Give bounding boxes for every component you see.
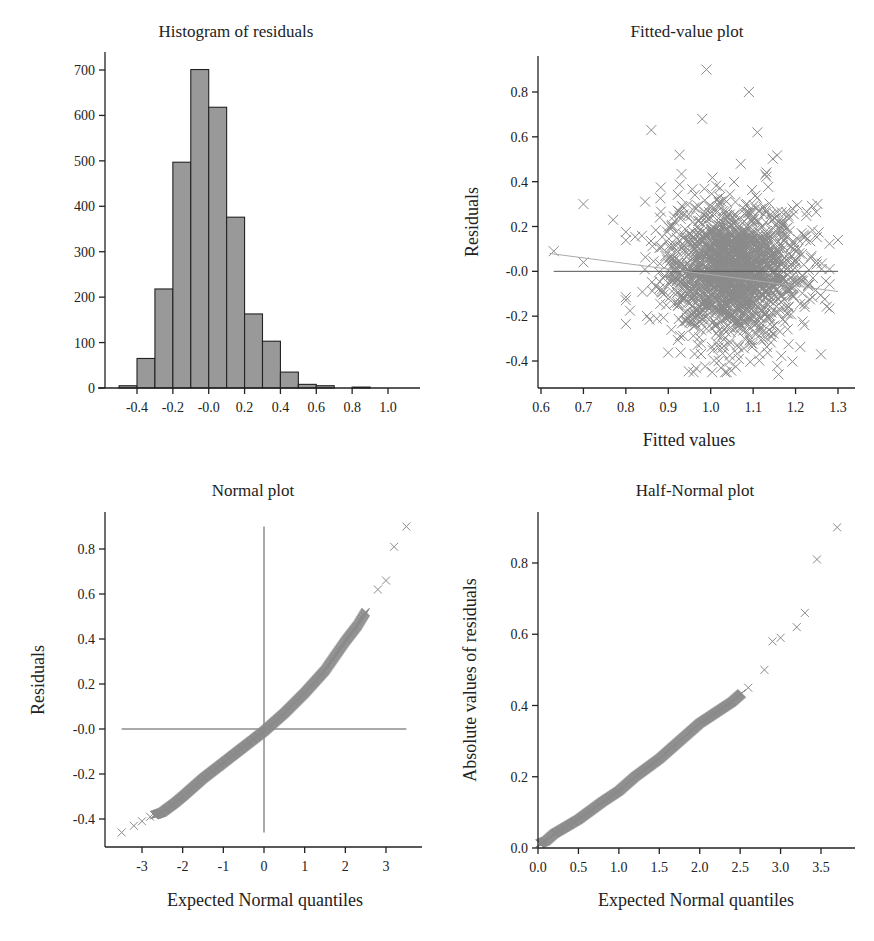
histogram-title: Histogram of residuals — [159, 22, 314, 41]
y-tick-label: 0.4 — [78, 632, 96, 647]
normal-scatter-points — [118, 523, 411, 837]
x-tick-label: 0.0 — [529, 860, 547, 875]
x-tick-label: 1.5 — [651, 860, 669, 875]
y-tick-label: -0.4 — [506, 354, 528, 369]
y-tick-label: 100 — [74, 336, 95, 351]
x-tick-label: -2 — [177, 859, 189, 874]
normal-plot-panel: Normal plot -0.4-0.2-0.00.20.40.60.8-3-2… — [28, 481, 422, 910]
y-tick-label: 0.6 — [511, 130, 529, 145]
x-tick-label: 1.1 — [744, 400, 762, 415]
half-normal-axes: 0.00.20.40.60.80.00.51.01.52.02.53.03.5 — [511, 512, 856, 875]
histogram-bar — [263, 341, 281, 388]
x-tick-label: 1.0 — [379, 400, 397, 415]
histogram-bars — [119, 70, 370, 388]
histogram-bar — [245, 314, 263, 388]
x-tick-label: 0.6 — [532, 400, 550, 415]
x-tick-label: 0.8 — [617, 400, 635, 415]
x-tick-label: 0.4 — [272, 400, 290, 415]
normal-axes: -0.4-0.2-0.00.20.40.60.8-3-2-10123 — [73, 512, 422, 874]
x-tick-label: 1.2 — [787, 400, 805, 415]
half-normal-title: Half-Normal plot — [636, 481, 755, 500]
y-tick-label: -0.4 — [73, 812, 95, 827]
y-tick-label: -0.2 — [506, 309, 528, 324]
histogram-bar — [209, 107, 227, 388]
x-tick-label: 1.0 — [610, 860, 628, 875]
y-tick-label: 0.6 — [78, 587, 96, 602]
histogram-panel: Histogram of residuals 01002003004005006… — [74, 22, 420, 415]
x-tick-label: -1 — [217, 859, 229, 874]
x-tick-label: -0.0 — [198, 400, 220, 415]
half-normal-x-label: Expected Normal quantiles — [598, 890, 794, 910]
histogram-bar — [227, 217, 245, 388]
y-tick-label: 0.2 — [78, 677, 96, 692]
x-tick-label: 1.0 — [702, 400, 720, 415]
y-tick-label: 0.2 — [511, 220, 529, 235]
x-tick-label: -0.4 — [126, 400, 148, 415]
x-tick-label: 3.5 — [812, 860, 830, 875]
normal-title: Normal plot — [212, 481, 295, 500]
x-tick-label: 0.8 — [343, 400, 361, 415]
y-tick-label: 0.8 — [511, 85, 529, 100]
histogram-bar — [173, 162, 191, 388]
x-tick-label: -0.2 — [162, 400, 184, 415]
histogram-bar — [155, 289, 173, 388]
fitted-title: Fitted-value plot — [631, 22, 744, 41]
y-tick-label: -0.0 — [506, 264, 528, 279]
half-normal-y-label: Absolute values of residuals — [460, 578, 480, 781]
x-tick-label: 0.2 — [236, 400, 254, 415]
y-tick-label: 700 — [74, 63, 95, 78]
y-tick-label: 0 — [88, 381, 95, 396]
x-tick-label: 3.0 — [772, 860, 790, 875]
y-tick-label: 600 — [74, 108, 95, 123]
x-tick-label: 2 — [342, 859, 349, 874]
x-tick-label: 0.6 — [308, 400, 326, 415]
histogram-bar — [191, 70, 209, 388]
x-tick-label: 2.5 — [731, 860, 749, 875]
x-tick-label: 3 — [383, 859, 390, 874]
x-tick-label: 0.5 — [570, 860, 588, 875]
histogram-bar — [137, 358, 155, 388]
x-tick-label: 1 — [301, 859, 308, 874]
y-tick-label: 400 — [74, 199, 95, 214]
y-tick-label: 0.0 — [511, 841, 529, 856]
x-tick-label: 0.9 — [660, 400, 678, 415]
y-tick-label: 0.6 — [511, 627, 529, 642]
normal-y-label: Residuals — [28, 645, 48, 715]
fitted-value-panel: Fitted-value plot -0.4-0.2-0.00.20.40.60… — [462, 22, 855, 450]
x-tick-label: 0.7 — [575, 400, 593, 415]
y-tick-label: 300 — [74, 245, 95, 260]
figure-canvas: Histogram of residuals 01002003004005006… — [0, 0, 874, 941]
y-tick-label: 0.4 — [511, 699, 529, 714]
histogram-bar — [280, 372, 298, 388]
y-tick-label: 0.8 — [511, 556, 529, 571]
x-tick-label: 2.0 — [691, 860, 709, 875]
y-tick-label: 500 — [74, 154, 95, 169]
fitted-scatter-points — [549, 65, 843, 380]
half-normal-scatter-points — [536, 523, 842, 847]
y-tick-label: 0.2 — [511, 770, 529, 785]
fitted-y-label: Residuals — [462, 187, 482, 257]
y-tick-label: 0.8 — [78, 542, 96, 557]
y-tick-label: 200 — [74, 290, 95, 305]
x-tick-label: 1.3 — [829, 400, 847, 415]
x-tick-label: 0 — [261, 859, 268, 874]
y-tick-label: -0.0 — [73, 722, 95, 737]
y-tick-label: -0.2 — [73, 767, 95, 782]
normal-x-label: Expected Normal quantiles — [167, 890, 363, 910]
y-tick-label: 0.4 — [511, 175, 529, 190]
fitted-x-label: Fitted values — [643, 430, 736, 450]
half-normal-panel: Half-Normal plot 0.00.20.40.60.80.00.51.… — [460, 481, 855, 910]
x-tick-label: -3 — [136, 859, 148, 874]
